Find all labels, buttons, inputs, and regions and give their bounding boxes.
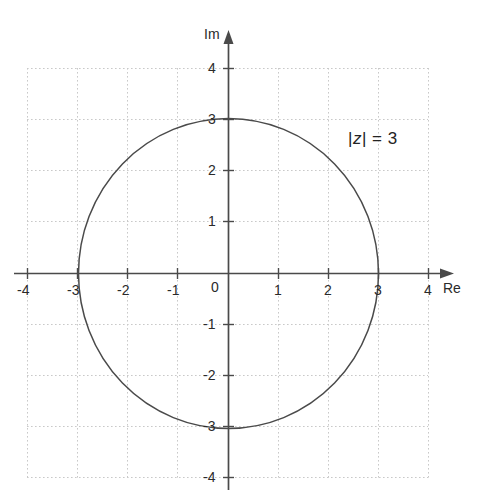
imaginary-axis-label: Im [204,27,220,41]
real-axis [14,269,454,279]
imaginary-axis-arrowhead [224,30,234,44]
imaginary-axis [224,30,234,490]
real-axis-arrowhead [440,269,454,279]
ytick-label-2: 2 [208,163,216,177]
ytick-label--1: -1 [203,317,215,331]
plot-canvas [0,0,484,501]
ytick-label-4: 4 [208,61,216,75]
xtick-label-2: 2 [324,283,332,297]
ytick-label--3: -3 [203,419,215,433]
ytick-label--4: -4 [203,470,215,484]
ytick-label--2: -2 [203,368,215,382]
xtick-label--4: -4 [17,283,29,297]
annotation-bar-close: | [362,129,367,148]
origin-label: 0 [211,280,219,294]
real-axis-label: Re [443,281,461,295]
xtick-label-3: 3 [374,283,382,297]
xtick-label-4: 4 [424,283,432,297]
annotation-relation: = 3 [372,129,398,148]
ytick-label-1: 1 [208,214,216,228]
ytick-label-3: 3 [208,112,216,126]
complex-plane-figure: -4 -3 -2 -1 1 2 3 4 0 4 3 2 1 -1 -2 -3 -… [0,0,484,501]
xtick-label--2: -2 [117,283,129,297]
xtick-label--1: -1 [167,283,179,297]
modulus-annotation: |z| = 3 [348,130,398,148]
xtick-label-1: 1 [274,283,282,297]
annotation-variable: z [353,129,362,148]
xtick-label--3: -3 [67,283,79,297]
